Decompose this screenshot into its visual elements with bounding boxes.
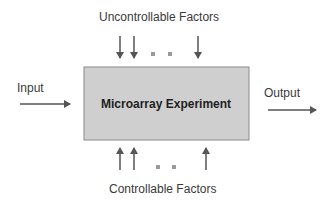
uncontrollable-factors-label: Uncontrollable Factors bbox=[99, 10, 219, 24]
uncontrollable-factor-arrows bbox=[120, 36, 198, 58]
controllable-ellipsis-dots bbox=[156, 165, 176, 169]
uncontrollable-ellipsis-dots bbox=[151, 52, 172, 56]
ellipsis-dot bbox=[151, 52, 155, 56]
ellipsis-dot bbox=[168, 52, 172, 56]
experiment-box-label: Microarray Experiment bbox=[101, 97, 231, 111]
ellipsis-dot bbox=[156, 165, 160, 169]
input-label: Input bbox=[17, 81, 44, 95]
ellipsis-dot bbox=[172, 165, 176, 169]
controllable-factors-label: Controllable Factors bbox=[109, 182, 216, 196]
controllable-factor-arrows bbox=[120, 148, 206, 170]
output-label: Output bbox=[264, 86, 300, 100]
